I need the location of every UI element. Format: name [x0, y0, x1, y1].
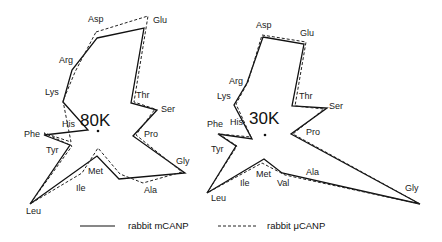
residue-label-pro: Pro	[144, 129, 158, 139]
residue-label-asp: Asp	[256, 20, 272, 30]
residue-label-his: His	[230, 117, 243, 127]
residue-label-arg: Arg	[229, 76, 243, 86]
residue-label-val: Val	[277, 178, 289, 188]
residue-label-gly: Gly	[405, 183, 419, 193]
residue-label-met: Met	[256, 169, 272, 179]
residue-label-lys: Lys	[217, 91, 231, 101]
panel-title-30k: 30K	[249, 109, 280, 128]
legend-label-ucanp: rabbit μCANP	[267, 220, 325, 231]
residue-label-tyr: Tyr	[211, 144, 224, 154]
panel-30k: 30K AspGluArgLysThrSerHisPheProTyrAlaMet…	[207, 20, 420, 204]
residue-label-asp: Asp	[88, 14, 104, 24]
residue-label-leu: Leu	[26, 206, 41, 216]
legend-label-mcanp: rabbit mCANP	[128, 220, 189, 231]
legend: rabbit mCANP rabbit μCANP	[80, 220, 325, 231]
residue-label-arg: Arg	[59, 55, 73, 65]
residue-label-glu: Glu	[300, 28, 314, 38]
panel-80k: 80K AspGluArgLysThrSerHisProPheTyrGlyMet…	[24, 14, 190, 216]
amino-acid-composition-diagram: 80K AspGluArgLysThrSerHisProPheTyrGlyMet…	[0, 0, 442, 242]
residue-label-ser: Ser	[329, 101, 343, 111]
residue-label-met: Met	[88, 166, 104, 176]
residue-label-gly: Gly	[176, 156, 190, 166]
residue-label-ile: Ile	[76, 183, 86, 193]
residue-label-pro: Pro	[306, 127, 320, 137]
residue-label-phe: Phe	[207, 119, 223, 129]
residue-labels-30k: AspGluArgLysThrSerHisPheProTyrAlaMetIleV…	[207, 20, 419, 203]
residue-label-leu: Leu	[211, 193, 226, 203]
residue-label-tyr: Tyr	[46, 145, 59, 155]
residue-label-ala: Ala	[306, 167, 319, 177]
residue-label-ile: Ile	[240, 178, 250, 188]
residue-label-glu: Glu	[153, 15, 167, 25]
center-dot-30k	[264, 134, 267, 137]
residue-label-phe: Phe	[24, 129, 40, 139]
panel-title-80k: 80K	[80, 111, 111, 130]
residue-label-lys: Lys	[45, 87, 59, 97]
center-dot-80k	[97, 130, 100, 133]
residue-label-thr: Thr	[136, 90, 150, 100]
residue-label-his: His	[62, 119, 75, 129]
residue-label-ser: Ser	[161, 104, 175, 114]
residue-label-thr: Thr	[299, 91, 313, 101]
residue-label-ala: Ala	[144, 185, 157, 195]
